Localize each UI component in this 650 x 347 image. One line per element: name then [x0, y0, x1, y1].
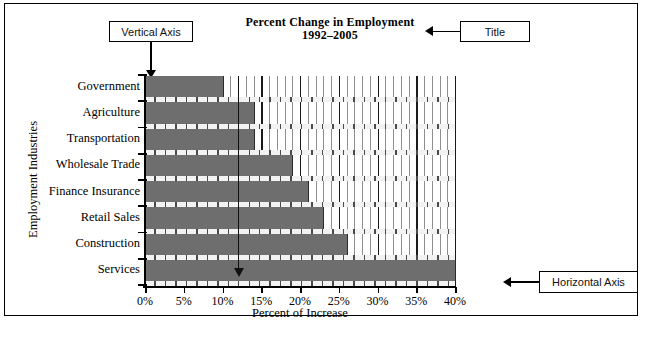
- y-axis-tick: [138, 258, 147, 260]
- x-axis-tick: [300, 287, 302, 293]
- y-axis-tick-label: Wholesale Trade: [10, 157, 140, 172]
- bar-row: [145, 76, 455, 97]
- x-axis-tick: [455, 287, 457, 293]
- x-axis-tick-label: 15%: [241, 294, 281, 309]
- x-axis-tick-label: 25%: [319, 294, 359, 309]
- page-title: Percent Change in Employment 1992–2005: [210, 16, 450, 42]
- y-axis-tick-label: Finance Insurance: [10, 184, 140, 199]
- chart-frame: Percent Change in Employment 1992–2005 V…: [4, 3, 638, 316]
- x-axis-tick-label: 10%: [203, 294, 243, 309]
- y-axis-tick: [138, 127, 147, 129]
- y-axis-tick: [138, 284, 147, 286]
- x-axis-tick-label: 35%: [396, 294, 436, 309]
- x-axis-tick: [339, 287, 341, 293]
- y-axis-tick: [138, 100, 147, 102]
- x-axis-tick: [378, 287, 380, 293]
- callout-title-leader-line: [433, 31, 461, 33]
- callout-horizontal-axis-leader-line: [511, 281, 540, 283]
- y-axis-tick-label: Retail Sales: [10, 210, 140, 225]
- arrow-left-icon: [425, 26, 433, 36]
- bar-row: [145, 129, 455, 150]
- x-axis-tick: [145, 287, 147, 293]
- bar[interactable]: [145, 155, 293, 176]
- x-axis-tick: [184, 287, 186, 293]
- y-axis-tick: [138, 205, 147, 207]
- arrow-left-icon: [503, 277, 511, 287]
- callout-horizontal-axis-label: Horizontal Axis: [552, 276, 625, 288]
- callout-title: Title: [460, 21, 530, 42]
- y-axis-tick-label: Government: [10, 79, 140, 94]
- bar-row: [145, 181, 455, 202]
- y-axis-tick-label: Services: [10, 262, 140, 277]
- vertical-axis-pointer-line: [238, 76, 239, 272]
- bar-row: [145, 260, 455, 281]
- y-axis-tick-label: Transportation: [10, 131, 140, 146]
- y-axis-tick-label: Agriculture: [10, 105, 140, 120]
- x-axis-tick-label: 0%: [125, 294, 165, 309]
- chart-title-line2: 1992–2005: [210, 29, 450, 42]
- y-axis-tick: [138, 74, 147, 76]
- bar[interactable]: [145, 234, 348, 255]
- x-axis-tick: [261, 287, 263, 293]
- bar[interactable]: [145, 76, 224, 97]
- callout-title-label: Title: [485, 26, 505, 38]
- y-axis-tick: [138, 153, 147, 155]
- bar-row: [145, 207, 455, 228]
- arrow-down-icon: [234, 268, 244, 277]
- y-axis-tick-label: Construction: [10, 236, 140, 251]
- y-axis-line: [144, 74, 146, 288]
- callout-vertical-axis: Vertical Axis: [109, 21, 193, 42]
- bar[interactable]: [145, 260, 456, 281]
- x-axis-tick-label: 5%: [164, 294, 204, 309]
- x-axis-tick-label: 30%: [358, 294, 398, 309]
- x-axis-tick-label: 40%: [435, 294, 475, 309]
- x-axis-tick-label: 20%: [280, 294, 320, 309]
- bar-row: [145, 155, 455, 176]
- bar-row: [145, 102, 455, 123]
- callout-vertical-axis-label: Vertical Axis: [121, 26, 180, 38]
- bar[interactable]: [145, 207, 324, 228]
- x-axis-tick: [223, 287, 225, 293]
- y-axis-tick-labels: GovernmentAgricultureTransportationWhole…: [7, 76, 140, 286]
- y-axis-tick: [138, 232, 147, 234]
- y-axis-tick: [138, 179, 147, 181]
- callout-vertical-axis-leader-line: [150, 42, 152, 72]
- x-axis-tick: [416, 287, 418, 293]
- callout-horizontal-axis: Horizontal Axis: [539, 271, 638, 293]
- gridline: [455, 76, 456, 286]
- bar[interactable]: [145, 181, 309, 202]
- plot-area: [145, 76, 455, 286]
- chart-title-line1: Percent Change in Employment: [245, 15, 414, 29]
- bar-row: [145, 234, 455, 255]
